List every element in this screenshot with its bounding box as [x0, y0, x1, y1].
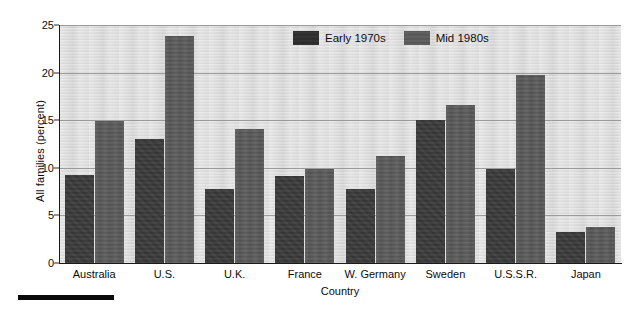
bar-u-s-mid-1980s — [165, 36, 194, 263]
bar-u-s-s-r-mid-1980s — [516, 75, 545, 263]
y-tick-mark — [54, 120, 59, 121]
x-tick-label: U.K. — [224, 268, 245, 280]
y-tick-mark — [54, 167, 59, 168]
gridline — [59, 25, 621, 26]
y-tick-label: 15 — [28, 114, 54, 126]
bar-w-germany-mid-1980s — [376, 156, 405, 263]
bar-japan-early-1970s — [556, 232, 585, 263]
y-tick-label: 0 — [28, 257, 54, 269]
x-tick-label: France — [288, 268, 322, 280]
bar-japan-mid-1980s — [586, 227, 615, 263]
y-tick-mark — [54, 25, 59, 26]
x-tick-label: Sweden — [425, 268, 465, 280]
x-tick-label: Australia — [73, 268, 116, 280]
x-tick-label: U.S.S.R. — [494, 268, 537, 280]
y-axis-line — [59, 25, 60, 264]
x-tick-label: Japan — [571, 268, 601, 280]
legend-entry-mid-1980s: Mid 1980s — [404, 31, 489, 45]
legend-swatch-mid-1980s — [404, 31, 430, 45]
bar-u-k-early-1970s — [205, 189, 234, 263]
plot-area — [59, 25, 621, 263]
bottom-rule — [18, 295, 114, 300]
legend-label-early-1970s: Early 1970s — [325, 32, 386, 44]
bar-u-s-early-1970s — [135, 139, 164, 263]
x-tick-label: W. Germany — [345, 268, 406, 280]
y-axis-tick-labels: 0510152025 — [28, 0, 54, 313]
bar-u-s-s-r-early-1970s — [486, 169, 515, 263]
legend-label-mid-1980s: Mid 1980s — [436, 32, 489, 44]
chart-legend: Early 1970s Mid 1980s — [293, 31, 500, 45]
x-tick-label: U.S. — [154, 268, 175, 280]
bar-w-germany-early-1970s — [346, 189, 375, 263]
y-tick-label: 5 — [28, 209, 54, 221]
gridline — [59, 73, 621, 74]
bar-france-early-1970s — [275, 176, 304, 263]
y-tick-label: 10 — [28, 162, 54, 174]
bar-australia-early-1970s — [65, 175, 94, 263]
x-axis-line — [59, 263, 622, 264]
legend-entry-early-1970s: Early 1970s — [293, 31, 386, 45]
bar-u-k-mid-1980s — [235, 129, 264, 263]
y-tick-label: 25 — [28, 19, 54, 31]
y-tick-mark — [54, 263, 59, 264]
bar-chart-figure: All families (percent) 0510152025 Austra… — [0, 0, 637, 313]
y-tick-label: 20 — [28, 67, 54, 79]
x-axis-title: Country — [59, 285, 621, 297]
y-tick-mark — [54, 72, 59, 73]
bar-sweden-early-1970s — [416, 120, 445, 263]
y-tick-mark — [54, 215, 59, 216]
bar-france-mid-1980s — [305, 169, 334, 263]
bar-sweden-mid-1980s — [446, 105, 475, 263]
legend-swatch-early-1970s — [293, 31, 319, 45]
bar-australia-mid-1980s — [95, 121, 124, 263]
